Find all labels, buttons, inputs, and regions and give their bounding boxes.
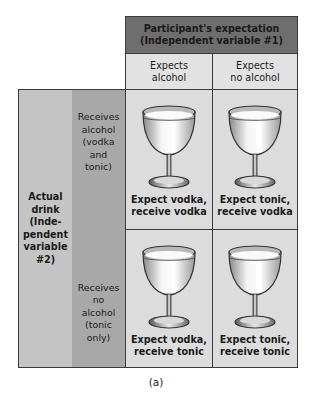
row-variable-actual-drink: Actual drink (Inde- pendent variable #2) <box>18 89 73 368</box>
wine-glass-icon <box>140 104 198 190</box>
figure-caption: (a) <box>0 376 312 388</box>
row-variable-line: drink <box>23 204 68 217</box>
cell-label: Expect vodka, receive tonic <box>131 334 207 358</box>
header-participant-expectation: Participant's expectation (Independent v… <box>125 16 298 54</box>
cell-label: Expect tonic, receive tonic <box>220 334 290 358</box>
cell-expect-vodka-receive-tonic: Expect vodka, receive tonic <box>125 229 213 368</box>
row-variable-line: #2) <box>23 254 68 267</box>
row-variable-line: (Inde- <box>23 216 68 229</box>
wine-glass-icon <box>140 244 198 330</box>
row-level-outline <box>72 89 126 368</box>
cell-label: Expect tonic, receive vodka <box>217 194 292 218</box>
wine-glass-icon <box>226 244 284 330</box>
cell-expect-vodka-receive-vodka: Expect vodka, receive vodka <box>125 89 213 230</box>
header-title-line1: Participant's expectation <box>140 23 283 35</box>
cell-label: Expect vodka, receive vodka <box>131 194 207 218</box>
wine-glass-icon <box>226 104 284 190</box>
column-header-expects-no-alcohol: Expects no alcohol <box>212 53 298 90</box>
row-variable-line: Actual <box>23 191 68 204</box>
column-header-line1: Expects <box>150 60 188 72</box>
cell-expect-tonic-receive-tonic: Expect tonic, receive tonic <box>212 229 298 368</box>
cell-expect-tonic-receive-vodka: Expect tonic, receive vodka <box>212 89 298 230</box>
row-variable-line: pendent <box>23 229 68 242</box>
column-header-line2: alcohol <box>150 72 188 84</box>
header-title-line2: (Independent variable #1) <box>140 35 283 47</box>
row-variable-line: variable <box>23 241 68 254</box>
column-header-line2: no alcohol <box>230 72 279 84</box>
column-header-expects-alcohol: Expects alcohol <box>125 53 213 90</box>
column-header-line1: Expects <box>230 60 279 72</box>
